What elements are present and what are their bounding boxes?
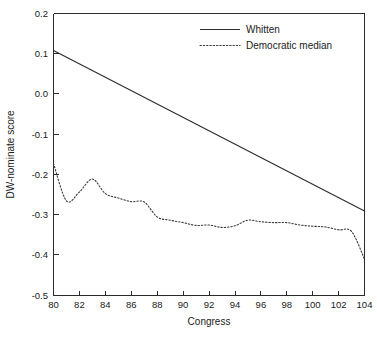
- x-tick-label: 104: [357, 299, 373, 310]
- x-tick-marks: [54, 291, 365, 296]
- y-tick-label: -0.1: [32, 129, 48, 140]
- plot-axes: [54, 14, 365, 296]
- x-tick-label: 102: [331, 299, 347, 310]
- x-tick-label: 96: [256, 299, 267, 310]
- x-tick-label: 100: [305, 299, 321, 310]
- y-tick-label: 0.1: [35, 48, 48, 59]
- x-tick-label: 98: [282, 299, 293, 310]
- x-tick-label: 90: [178, 299, 189, 310]
- x-tick-label: 88: [152, 299, 163, 310]
- x-tick-label: 92: [204, 299, 215, 310]
- y-tick-labels: 0.2 0.1 0.0 -0.1 -0.2 -0.3 -0.4 -0.5: [32, 8, 48, 301]
- x-tick-label: 84: [100, 299, 111, 310]
- chart-figure: 0.2 0.1 0.0 -0.1 -0.2 -0.3 -0.4 -0.5: [0, 0, 377, 339]
- x-tick-labels: 80 82 84 86 88 90 92 94 96 98 100 102 10…: [48, 299, 372, 310]
- y-tick-label: -0.4: [32, 249, 48, 260]
- legend-label-whitten: Whitten: [246, 24, 280, 35]
- y-tick-label: 0.0: [35, 88, 48, 99]
- x-tick-label: 94: [230, 299, 241, 310]
- legend: Whitten Democratic median: [200, 24, 332, 51]
- y-tick-label: 0.2: [35, 8, 48, 19]
- y-tick-label: -0.5: [32, 290, 48, 301]
- y-tick-label: -0.3: [32, 209, 48, 220]
- x-tick-label: 82: [74, 299, 85, 310]
- series-line-democratic-median: [54, 163, 365, 259]
- x-tick-label: 80: [48, 299, 59, 310]
- series-group: [54, 51, 365, 260]
- y-tick-label: -0.2: [32, 169, 48, 180]
- x-axis-title: Congress: [188, 316, 231, 327]
- x-tick-label: 86: [126, 299, 137, 310]
- legend-label-democratic-median: Democratic median: [246, 40, 332, 51]
- y-axis-title: DW-nominate score: [5, 110, 16, 199]
- line-chart: 0.2 0.1 0.0 -0.1 -0.2 -0.3 -0.4 -0.5: [0, 0, 377, 339]
- y-tick-marks: [54, 14, 59, 296]
